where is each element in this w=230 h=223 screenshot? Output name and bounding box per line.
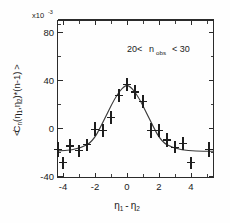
y-tick-label: -40 xyxy=(40,171,54,182)
figure-container: 80 40 0 -40 -4 -2 0 2 4 x10 -3 20< n obs… xyxy=(0,0,230,223)
annotation-right: < 30 xyxy=(172,44,190,54)
data-point xyxy=(75,145,83,157)
y-right-ticks xyxy=(209,32,214,176)
x-tick-label: 2 xyxy=(156,181,161,192)
data-point xyxy=(99,124,107,137)
scale-exponent: -3 xyxy=(48,9,53,15)
data-points xyxy=(54,78,213,169)
svg-text:<̇Cn(η1,η2)*(n-1)>: <̇Cn(η1,η2)*(n-1)> xyxy=(11,64,23,136)
annotation-variable-subscript: obs xyxy=(156,49,166,56)
y-tick-label: 0 xyxy=(49,123,54,134)
y-tick-labels: 80 40 0 -40 xyxy=(40,27,54,182)
x-tick-label: -4 xyxy=(59,181,67,192)
data-point xyxy=(179,137,187,150)
xlabel-minus: - xyxy=(125,200,128,211)
data-point xyxy=(59,157,67,169)
annotation-nobs-range: 20< n obs < 30 xyxy=(127,44,190,56)
x-top-ticks xyxy=(63,20,207,25)
xlabel-eta1-subscript: 1 xyxy=(120,205,124,212)
data-point xyxy=(54,142,62,156)
y-tick-label: 80 xyxy=(43,27,54,38)
data-point xyxy=(163,133,171,146)
data-point xyxy=(115,89,123,102)
y-axis-scale-label: x10 -3 xyxy=(32,9,53,20)
x-axis-title: η1-η2 xyxy=(114,200,140,212)
scale-multiplier: x10 xyxy=(32,11,44,20)
ylabel-close-bracket: > xyxy=(11,64,22,70)
svg-text:η1-η2: η1-η2 xyxy=(114,200,140,212)
y-axis-title: <̇Cn(η1,η2)*(n-1)> xyxy=(11,64,23,136)
x-major-ticks xyxy=(63,173,191,178)
data-point xyxy=(205,142,213,156)
data-point xyxy=(91,122,99,136)
xlabel-eta2-subscript: 2 xyxy=(136,205,140,212)
data-point xyxy=(139,95,147,108)
data-point xyxy=(171,141,179,153)
y-tick-label: 40 xyxy=(43,75,54,86)
x-tick-label: 4 xyxy=(188,181,193,192)
data-point xyxy=(187,157,195,169)
ylabel-multiplier: *(n-1) xyxy=(11,72,22,96)
annotation-left: 20< xyxy=(127,44,142,54)
x-tick-label: -2 xyxy=(91,181,99,192)
data-point xyxy=(123,78,131,91)
data-point xyxy=(147,123,155,137)
data-point xyxy=(83,139,91,151)
annotation-variable: n xyxy=(149,44,154,54)
correlation-plot: 80 40 0 -40 -4 -2 0 2 4 x10 -3 20< n obs… xyxy=(0,0,230,223)
x-tick-label: 0 xyxy=(124,181,129,192)
x-tick-labels: -4 -2 0 2 4 xyxy=(59,181,194,192)
data-point xyxy=(155,124,163,137)
